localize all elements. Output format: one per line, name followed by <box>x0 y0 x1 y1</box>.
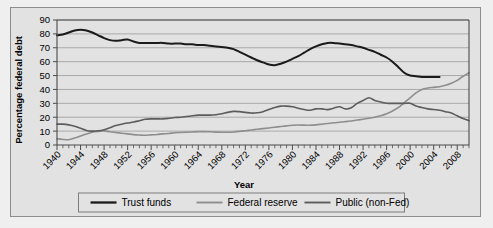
legend-label-1: Federal reserve <box>228 197 298 208</box>
chart-legend: Trust fundsFederal reservePublic (non-Fe… <box>79 193 410 212</box>
plot-area <box>57 20 469 145</box>
plot-background <box>57 20 469 145</box>
chart-figure: 0102030405060708090 19401944194819521956… <box>10 7 481 217</box>
y-tick-label: 50 <box>39 70 50 81</box>
line-chart: 0102030405060708090 19401944194819521956… <box>11 8 480 216</box>
y-tick-label: 40 <box>39 84 50 95</box>
y-tick-label: 0 <box>45 139 50 150</box>
y-tick-label: 90 <box>39 14 50 25</box>
y-tick-label: 20 <box>39 112 50 123</box>
y-axis-title: Percentage federal debt <box>13 35 24 144</box>
legend-label-2: Public (non-Fed) <box>336 197 410 208</box>
y-tick-label: 30 <box>39 98 50 109</box>
y-tick-label: 10 <box>39 126 50 137</box>
y-tick-label: 80 <box>39 28 50 39</box>
legend-label-0: Trust funds <box>122 197 172 208</box>
y-tick-label: 70 <box>39 42 50 53</box>
y-tick-label: 60 <box>39 56 50 67</box>
x-axis-title: Year <box>234 179 254 190</box>
